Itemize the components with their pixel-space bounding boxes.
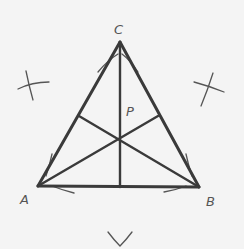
median-lines <box>38 42 199 187</box>
triangle-diagram: C A B P <box>0 0 244 249</box>
point-label-p: P <box>126 104 134 119</box>
side-ac <box>38 42 120 186</box>
vertex-label-b: B <box>206 194 215 209</box>
triangle-abc <box>38 42 199 187</box>
side-ab <box>38 186 199 187</box>
construction-arc-left <box>18 71 49 100</box>
vertex-label-a: A <box>19 192 29 207</box>
construction-arc-right <box>194 73 224 106</box>
construction-arc-bottom <box>108 232 132 246</box>
vertex-label-c: C <box>114 22 124 37</box>
